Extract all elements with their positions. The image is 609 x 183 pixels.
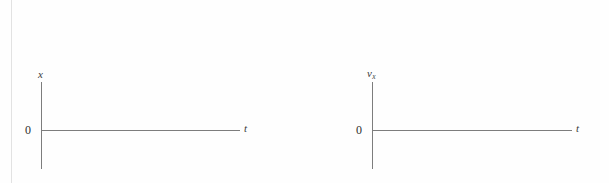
velocity-time-graph: 0 vx t	[331, 0, 609, 183]
position-time-graph: 0 x t	[0, 0, 305, 183]
velocity-graph-x-axis-label: t	[576, 123, 579, 134]
velocity-y-label-subscript: x	[372, 72, 375, 81]
position-graph-y-axis	[41, 82, 42, 169]
velocity-graph-x-axis	[372, 130, 572, 131]
position-graph-origin-label: 0	[25, 124, 31, 136]
position-graph-y-axis-label: x	[38, 69, 43, 80]
position-graph-x-axis-label: t	[244, 123, 247, 134]
velocity-graph-y-axis	[372, 82, 373, 169]
velocity-graph-y-axis-label: vx	[367, 68, 375, 79]
figure-container: 0 x t 0 vx t	[0, 0, 609, 183]
velocity-graph-origin-label: 0	[356, 124, 362, 136]
position-y-label-base: x	[38, 68, 43, 80]
position-graph-x-axis	[41, 130, 240, 131]
